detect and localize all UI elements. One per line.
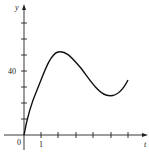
y-tick-label-40: 40: [8, 67, 16, 76]
chart: y t 0 1 40: [0, 0, 149, 152]
y-axis-label: y: [14, 3, 19, 12]
x-axis-label: t: [144, 140, 147, 149]
x-tick-label-1: 1: [39, 140, 43, 149]
origin-label: 0: [17, 138, 21, 147]
y-axis-arrow-icon: [22, 4, 26, 10]
x-axis-arrow-icon: [142, 133, 148, 137]
curve: [24, 52, 128, 135]
